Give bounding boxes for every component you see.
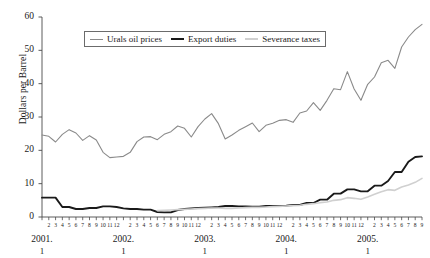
- x-tick-label-month: 2: [47, 222, 50, 228]
- x-tick-label-month: 2: [292, 222, 295, 228]
- x-tick-label-month: 10: [100, 222, 106, 228]
- x-tick-label-month: 7: [407, 222, 410, 228]
- x-tick-label-month: 3: [217, 222, 220, 228]
- x-tick-label-month: 4: [387, 222, 390, 228]
- x-axis-year-label: 2002.: [113, 234, 134, 244]
- x-tick-label-month: 8: [170, 222, 173, 228]
- x-tick-label-month: 4: [61, 222, 64, 228]
- x-axis-year-label: 2004.: [276, 234, 297, 244]
- y-tick-label-0: 0: [14, 211, 34, 221]
- chart-figure: Dollars per Barrel 0102030405060 2345678…: [0, 0, 430, 258]
- x-tick-label-month: 8: [88, 222, 91, 228]
- x-tick-label-month: 9: [176, 222, 179, 228]
- y-tick-label-20: 20: [14, 144, 34, 154]
- y-tick-label-10: 10: [14, 178, 34, 188]
- x-tick-label-month: 8: [332, 222, 335, 228]
- x-tick-label-month: 7: [244, 222, 247, 228]
- x-tick-label-month: 9: [339, 222, 342, 228]
- y-tick-label-30: 30: [14, 111, 34, 121]
- x-tick-label-month: 11: [107, 222, 112, 228]
- x-tick-label-month: 2: [210, 222, 213, 228]
- x-tick-label-month: 9: [421, 222, 424, 228]
- x-tick-label-month: 11: [351, 222, 356, 228]
- x-tick-label-month: 5: [149, 222, 152, 228]
- x-tick-label-month: 12: [358, 222, 364, 228]
- series-line-export-duties: [42, 156, 422, 212]
- x-tick-label-month: 3: [54, 222, 57, 228]
- x-tick-label-month: 6: [75, 222, 78, 228]
- x-tick-label-month: 5: [231, 222, 234, 228]
- x-axis-year-month-one-label: 1: [121, 246, 126, 256]
- x-axis-year-month-one-label: 1: [203, 246, 208, 256]
- legend-label-export-duties: Export duties: [188, 34, 236, 44]
- x-axis-year-label: 2001.: [31, 234, 52, 244]
- legend-entry-export-duties: Export duties: [171, 34, 236, 44]
- legend-swatch-severance-taxes: [245, 38, 258, 40]
- y-tick-label-60: 60: [14, 11, 34, 21]
- legend-swatch-export-duties: [171, 38, 184, 40]
- x-axis-year-month-one-label: 1: [365, 246, 370, 256]
- x-tick-label-month: 9: [95, 222, 98, 228]
- x-tick-label-month: 11: [189, 222, 194, 228]
- x-tick-label-month: 2: [129, 222, 132, 228]
- x-tick-label-month: 12: [114, 222, 120, 228]
- x-tick-label-month: 6: [400, 222, 403, 228]
- x-tick-label-month: 10: [263, 222, 269, 228]
- x-tick-label-month: 10: [182, 222, 188, 228]
- x-tick-label-month: 5: [68, 222, 71, 228]
- x-tick-label-month: 4: [305, 222, 308, 228]
- x-tick-label-month: 3: [136, 222, 139, 228]
- x-tick-label-month: 3: [298, 222, 301, 228]
- x-axis-year-label: 2005.: [357, 234, 378, 244]
- y-tick-label-40: 40: [14, 78, 34, 88]
- x-tick-label-month: 3: [380, 222, 383, 228]
- x-tick-label-month: 5: [312, 222, 315, 228]
- x-tick-label-month: 12: [195, 222, 201, 228]
- x-tick-label-month: 8: [251, 222, 254, 228]
- x-tick-label-month: 4: [142, 222, 145, 228]
- x-axis-year-month-one-label: 1: [284, 246, 289, 256]
- x-tick-label-month: 6: [156, 222, 159, 228]
- chart-legend: Urals oil prices Export duties Severance…: [84, 31, 326, 47]
- x-tick-label-month: 7: [326, 222, 329, 228]
- x-axis-year-label: 2003.: [194, 234, 215, 244]
- y-tick-label-50: 50: [14, 44, 34, 54]
- x-tick-label-month: 12: [277, 222, 283, 228]
- x-tick-label-month: 5: [393, 222, 396, 228]
- x-axis-year-month-one-label: 1: [40, 246, 45, 256]
- legend-entry-urals-oil-prices: Urals oil prices: [90, 34, 162, 44]
- x-tick-label-month: 6: [319, 222, 322, 228]
- legend-swatch-urals-oil-prices: [90, 39, 103, 40]
- x-tick-label-month: 9: [258, 222, 261, 228]
- x-tick-label-month: 8: [414, 222, 417, 228]
- series-line-severance-taxes: [157, 178, 422, 210]
- x-tick-label-month: 7: [81, 222, 84, 228]
- x-tick-label-month: 11: [270, 222, 275, 228]
- legend-label-urals-oil-prices: Urals oil prices: [107, 34, 162, 44]
- x-tick-label-month: 7: [163, 222, 166, 228]
- x-tick-label-month: 4: [224, 222, 227, 228]
- x-tick-label-month: 10: [345, 222, 351, 228]
- legend-entry-severance-taxes: Severance taxes: [245, 34, 320, 44]
- x-tick-label-month: 2: [373, 222, 376, 228]
- legend-label-severance-taxes: Severance taxes: [262, 34, 320, 44]
- x-tick-label-month: 6: [237, 222, 240, 228]
